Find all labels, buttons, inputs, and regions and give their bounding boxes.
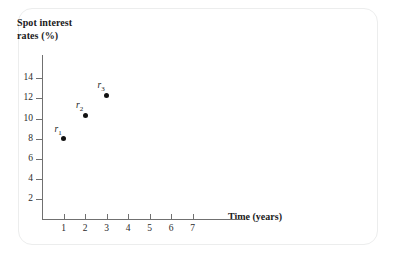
data-point-label: r1 — [55, 124, 62, 134]
x-tick-mark — [85, 214, 86, 220]
x-axis-line — [42, 219, 243, 220]
data-point — [83, 113, 88, 118]
y-tick-mark — [36, 78, 43, 79]
y-tick-mark — [36, 199, 43, 200]
x-tick-mark — [193, 214, 194, 220]
x-tick-label: 2 — [78, 223, 92, 233]
y-tick-mark — [36, 98, 43, 99]
y-axis-title-line2: rates (%) — [17, 30, 58, 41]
y-tick-mark — [36, 139, 43, 140]
data-point — [104, 93, 109, 98]
y-tick-label: 2 — [12, 194, 33, 204]
x-tick-label: 7 — [186, 223, 200, 233]
y-axis-line — [42, 55, 43, 220]
y-axis-title-line1: Spot interest — [17, 17, 72, 28]
spot-rate-curve-chart: Spot interestrates (%) Time (years) 2468… — [0, 0, 402, 260]
data-point-label: r2 — [76, 100, 83, 110]
data-point-label: r3 — [98, 80, 105, 90]
x-tick-label: 4 — [121, 223, 135, 233]
x-tick-label: 6 — [164, 223, 178, 233]
y-tick-label: 12 — [12, 93, 33, 103]
y-tick-label: 14 — [12, 73, 33, 83]
x-tick-label: 1 — [57, 223, 71, 233]
y-tick-label: 10 — [12, 114, 33, 124]
x-axis-title: Time (years) — [228, 211, 282, 222]
y-tick-label: 8 — [12, 134, 33, 144]
y-tick-label: 4 — [12, 174, 33, 184]
y-tick-mark — [36, 179, 43, 180]
y-tick-mark — [36, 159, 43, 160]
y-tick-mark — [36, 119, 43, 120]
y-tick-label: 6 — [12, 154, 33, 164]
y-axis-title: Spot interestrates (%) — [17, 17, 72, 42]
x-tick-mark — [150, 214, 151, 220]
x-tick-label: 3 — [100, 223, 114, 233]
x-tick-mark — [171, 214, 172, 220]
x-tick-label: 5 — [143, 223, 157, 233]
x-tick-mark — [64, 214, 65, 220]
x-tick-mark — [128, 214, 129, 220]
data-point — [61, 136, 66, 141]
x-tick-mark — [107, 214, 108, 220]
